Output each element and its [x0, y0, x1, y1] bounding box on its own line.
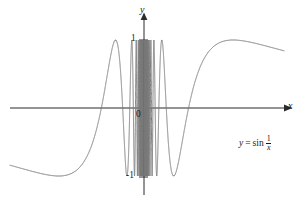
equation-equals: = — [245, 139, 250, 149]
equation-function-name: sin — [253, 139, 264, 149]
x-axis-label: x — [288, 101, 292, 111]
plot-canvas — [0, 0, 300, 198]
y-axis-label: y — [140, 5, 144, 15]
equation-denominator: x — [266, 143, 272, 152]
curve-equation-label: y = sin 1 x — [239, 135, 272, 153]
tick-label-negative-one: -1 — [126, 171, 134, 181]
figure-sin-one-over-x: y x 1 -1 0 y = sin 1 x — [0, 0, 300, 198]
equation-numerator: 1 — [266, 135, 272, 143]
tick-label-one: 1 — [131, 34, 136, 44]
origin-label: 0 — [136, 110, 141, 120]
equation-lhs: y — [239, 139, 243, 149]
equation-fraction: 1 x — [266, 135, 272, 153]
